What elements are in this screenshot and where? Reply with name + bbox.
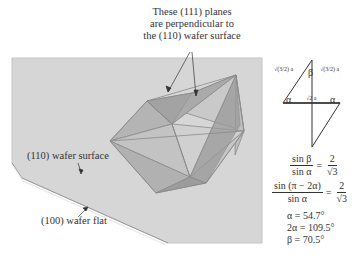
base-label: √2 a [306, 95, 316, 101]
result-alpha: α = 54.7° [287, 210, 334, 222]
equation-2: sin (π − 2α)sin α = 2√3 [272, 180, 349, 205]
wafer-flat-label: (100) wafer flat [41, 215, 107, 226]
result-beta: β = 70.5° [287, 234, 334, 246]
angle-alpha-right-label: α [330, 94, 335, 105]
annotation-line-1: These (111) planes [100, 6, 284, 18]
result-2alpha: 2α = 109.5° [287, 222, 334, 234]
equation-1: sin βsin α = 2√3 [290, 153, 340, 178]
annotation-line-3: the (110) wafer surface [100, 30, 284, 42]
equation-results: α = 54.7° 2α = 109.5° β = 70.5° [287, 210, 334, 246]
side-right-label: √(3/2) a [320, 66, 339, 72]
side-left-label: √(3/2) a [274, 66, 293, 72]
angle-beta-label: β [308, 67, 313, 78]
wafer-surface-label: (110) wafer surface [27, 150, 109, 161]
annotation-line-2: are perpendicular to [100, 18, 284, 30]
planes-annotation: These (111) planes are perpendicular to … [100, 6, 284, 42]
angle-alpha-left-label: α [286, 94, 291, 105]
